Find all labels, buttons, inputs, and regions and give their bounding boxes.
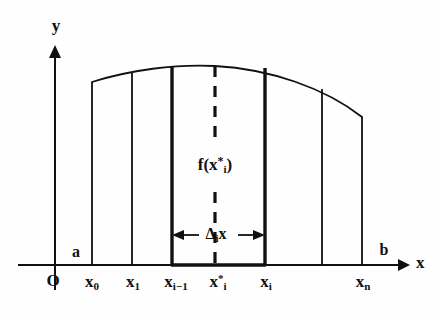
- tick-base-xi-minus-1: x: [164, 272, 173, 291]
- riemann-sum-figure: y x O a b f(x*i) Δix x0 x1 xi−1 x*i xi x…: [0, 0, 437, 314]
- tick-label-xi-star: x*i: [209, 273, 226, 292]
- function-value-open: f(x: [198, 155, 218, 174]
- tick-sub-xi-minus-1: i−1: [173, 280, 188, 292]
- tick-sub-xi-star: i: [223, 280, 226, 292]
- tick-label-x1: x1: [126, 273, 140, 292]
- function-value-annotation: f(x*i): [198, 155, 233, 175]
- tick-sub-x0: 0: [94, 280, 100, 292]
- tick-sub-xn: n: [364, 280, 370, 292]
- tick-label-x0: x0: [85, 273, 99, 292]
- delta-arrow-left-head: [172, 230, 184, 240]
- delta-width-annotation: Δix: [205, 226, 226, 244]
- x-axis-arrowhead: [398, 259, 410, 271]
- tick-base-xn: x: [356, 272, 365, 291]
- tick-base-x1: x: [126, 272, 135, 291]
- origin-label: O: [46, 272, 59, 289]
- tick-label-xi-minus-1: xi−1: [164, 273, 187, 292]
- tick-sub-xi: i: [269, 280, 272, 292]
- x-axis-label: x: [416, 254, 425, 271]
- tick-base-xi-star: x: [209, 272, 218, 291]
- y-axis-label: y: [52, 17, 61, 34]
- tick-base-x0: x: [85, 272, 94, 291]
- interval-left-endpoint-label: a: [72, 244, 80, 260]
- tick-sub-x1: 1: [135, 280, 141, 292]
- tick-label-xi: xi: [260, 273, 272, 292]
- y-axis-arrowhead: [49, 45, 61, 58]
- function-value-close: ): [227, 155, 233, 174]
- tick-label-xn: xn: [356, 273, 371, 292]
- delta-symbol: Δ: [205, 225, 215, 242]
- delta-arrow-right-head: [253, 230, 265, 240]
- y-axis: [49, 45, 61, 290]
- tick-base-xi: x: [260, 272, 269, 291]
- interval-right-endpoint-label: b: [380, 242, 389, 258]
- delta-suffix-x: x: [219, 225, 227, 242]
